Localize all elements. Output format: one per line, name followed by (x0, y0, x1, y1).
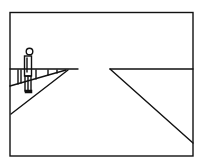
drawing-svg (0, 0, 202, 166)
picture-frame (10, 13, 193, 157)
right-road-edge (110, 69, 193, 143)
standing-figure (25, 48, 33, 93)
figure-body (25, 56, 32, 76)
left-road-edge (11, 70, 68, 114)
figure-feet (25, 90, 32, 93)
perspective-drawing (0, 0, 202, 166)
figure-head (26, 48, 33, 55)
